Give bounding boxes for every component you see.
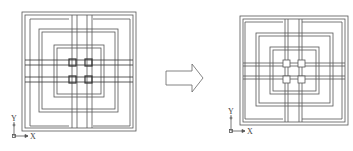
right-x-label: X <box>247 127 253 136</box>
left-axis-icon <box>13 122 29 138</box>
block-arrow-right-icon <box>166 64 203 92</box>
cad-figure: Y X Y X <box>0 0 353 151</box>
left-x-label: X <box>30 132 36 141</box>
left-y-label: Y <box>11 114 17 123</box>
right-y-label: Y <box>228 107 234 116</box>
right-drawing <box>230 16 349 133</box>
left-drawing <box>13 12 137 138</box>
